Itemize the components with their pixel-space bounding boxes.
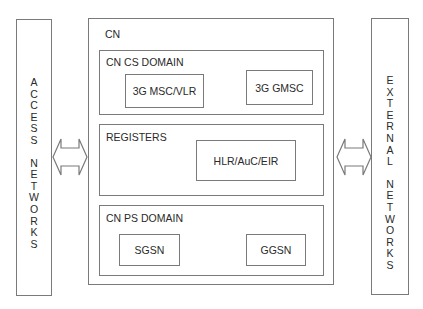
networks-word: NETWORKS (17, 158, 51, 251)
letter: O (17, 204, 51, 216)
ggsn-node: GGSN (246, 234, 306, 266)
sgsn-node: SGSN (119, 234, 180, 266)
cs-domain-label: CN CS DOMAIN (106, 56, 184, 68)
bidirectional-arrow-icon (52, 130, 88, 184)
hlr-auc-eir-node: HLR/AuC/EIR (196, 140, 296, 181)
letter: E (372, 75, 408, 87)
access-word: ACCESS (17, 77, 51, 147)
msc-vlr-node: 3G MSC/VLR (125, 74, 204, 108)
letter: A (17, 77, 51, 89)
letter: K (17, 227, 51, 239)
letter: S (17, 135, 51, 147)
access-networks-label: ACCESS NETWORKS (17, 77, 51, 250)
external-networks-box: EXTERNAL NETWORKS (371, 18, 409, 295)
access-networks-box: ACCESS NETWORKS (16, 19, 52, 296)
external-networks-label: EXTERNAL NETWORKS (372, 75, 408, 272)
sgsn-label: SGSN (135, 244, 165, 256)
gmsc-label: 3G GMSC (255, 82, 303, 94)
letter: S (17, 239, 51, 251)
ps-domain-label: CN PS DOMAIN (106, 212, 183, 224)
gmsc-node: 3G GMSC (246, 70, 313, 105)
letter: E (17, 169, 51, 181)
letter: O (372, 225, 408, 237)
hlr-auc-eir-label: HLR/AuC/EIR (214, 155, 279, 167)
msc-vlr-label: 3G MSC/VLR (133, 85, 197, 97)
letter: T (372, 202, 408, 214)
external-word: EXTERNAL (372, 75, 408, 168)
letter: N (372, 133, 408, 145)
letter: L (372, 156, 408, 168)
ggsn-label: GGSN (261, 244, 292, 256)
letter: S (372, 260, 408, 272)
registers-label: REGISTERS (106, 131, 167, 143)
core-network-label: CN (105, 28, 120, 40)
networks-word: NETWORKS (372, 179, 408, 272)
bidirectional-arrow-icon (336, 130, 372, 184)
